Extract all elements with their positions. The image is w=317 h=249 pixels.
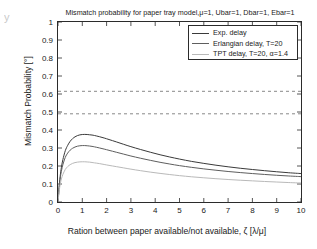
y-axis-label: Mismatch Probability [°] <box>23 26 33 176</box>
x-tick-label: 5 <box>171 206 189 215</box>
x-tick-label: 8 <box>243 206 261 215</box>
legend-label: Erlangian delay, T=20 <box>213 39 282 49</box>
y-tick-label: 0.1 <box>29 180 53 189</box>
legend-item: Exp. delay <box>192 28 297 38</box>
chart-figure: y Mismatch probability for paper tray mo… <box>0 0 317 249</box>
y-tick-label: 0.2 <box>29 162 53 171</box>
y-tick-label: 0.9 <box>29 36 53 45</box>
corner-artifact-glyph: y <box>4 10 10 24</box>
legend-line-swatch <box>192 54 209 55</box>
x-tick-label: 0 <box>49 206 67 215</box>
x-tick-label: 1 <box>73 206 91 215</box>
y-tick-label: 0.5 <box>29 108 53 117</box>
legend-item: TPT delay, T=20, α=1.4 <box>192 49 297 59</box>
legend-label: Exp. delay <box>213 28 247 38</box>
x-tick-label: 2 <box>98 206 116 215</box>
series-line <box>58 146 301 202</box>
y-tick-label: 0.7 <box>29 72 53 81</box>
series-line <box>58 134 301 202</box>
x-tick-label: 9 <box>268 206 286 215</box>
y-tick-label: 1 <box>29 18 53 27</box>
x-tick-label: 4 <box>146 206 164 215</box>
y-tick-label: 0.6 <box>29 90 53 99</box>
x-tick-label: 10 <box>292 206 310 215</box>
x-tick-label: 3 <box>122 206 140 215</box>
chart-legend: Exp. delayErlangian delay, T=20TPT delay… <box>188 25 298 60</box>
legend-line-swatch <box>192 43 209 44</box>
x-tick-label: 7 <box>219 206 237 215</box>
legend-item: Erlangian delay, T=20 <box>192 39 297 49</box>
y-tick-label: 0.3 <box>29 144 53 153</box>
legend-line-swatch <box>192 33 209 34</box>
y-tick-label: 0.8 <box>29 54 53 63</box>
x-axis-label: Ration between paper available/not avail… <box>32 226 302 236</box>
series-line <box>58 162 301 202</box>
y-tick-label: 0.4 <box>29 126 53 135</box>
x-tick-label: 6 <box>195 206 213 215</box>
chart-title: Mismatch probability for paper tray mode… <box>57 8 303 17</box>
legend-label: TPT delay, T=20, α=1.4 <box>213 49 288 59</box>
